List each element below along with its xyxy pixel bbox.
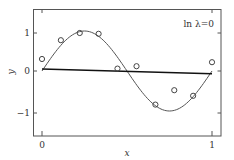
y-axis-label: y [6,69,16,76]
x-axis-label: x [124,148,129,158]
fitted-curve [42,69,212,74]
observation-points [39,30,214,107]
data-point [96,31,101,36]
data-point [191,93,196,98]
data-point [58,38,63,43]
x-tick-label-1: 1 [209,140,215,150]
data-point [39,56,44,61]
y-tick-label-neg1: −1 [17,108,30,118]
chart-canvas: 0 1 1 0 −1 x y ln λ=0 [0,0,234,160]
data-point [134,64,139,69]
y-tick-label-1: 1 [24,28,30,38]
data-point [209,60,214,65]
data-point [172,88,177,93]
y-tick-label-0: 0 [24,66,30,76]
lambda-annotation: ln λ=0 [183,19,214,29]
x-tick-label-0: 0 [39,140,45,150]
